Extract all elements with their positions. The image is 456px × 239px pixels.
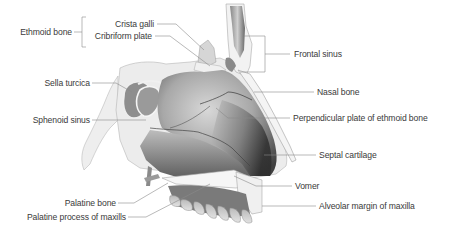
label-crista-galli: Crista galli [80, 19, 154, 29]
label-cribriform-plate: Cribriform plate [72, 31, 152, 41]
label-frontal-sinus: Frontal sinus [294, 49, 342, 59]
label-perpendicular-plate: Perpendicular plate of ethmoid bone [293, 113, 428, 123]
label-ethmoid-bone: Ethmoid bone [4, 27, 72, 37]
label-palatine-process: Palatine process of maxills [4, 212, 126, 222]
nasal-septum-diagram: Ethmoid bone Crista galli Cribriform pla… [0, 0, 456, 239]
label-sella-turcica: Sella turcica [20, 78, 90, 88]
label-palatine-bone: Palatine bone [30, 198, 116, 208]
label-sphenoid-sinus: Sphenoid sinus [10, 115, 90, 125]
label-septal-cartilage: Septal cartilage [319, 150, 377, 160]
label-alveolar-margin: Alveolar margin of maxilla [319, 201, 415, 211]
label-vomer: Vomer [295, 181, 319, 191]
label-nasal-bone: Nasal bone [317, 87, 359, 97]
